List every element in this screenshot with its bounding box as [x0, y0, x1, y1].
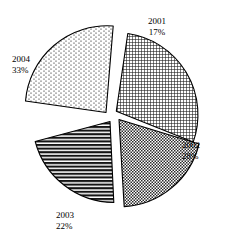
- slice-label-2001: 2001 17%: [148, 16, 166, 37]
- slice-label-2003-year: 2003: [56, 210, 74, 221]
- slice-label-2002-year: 2002: [182, 140, 200, 151]
- pie-chart-figure: 2001 17% 2002 28% 2003 22% 2004 33%: [0, 0, 226, 237]
- slice-label-2001-year: 2001: [148, 16, 166, 27]
- slice-label-2003: 2003 22%: [56, 210, 74, 231]
- slice-label-2004: 2004 33%: [12, 54, 30, 75]
- pie-slice-2003[interactable]: [35, 122, 114, 203]
- slice-label-2004-percent: 33%: [12, 65, 30, 76]
- slice-label-2002-percent: 28%: [182, 151, 200, 162]
- slice-label-2004-year: 2004: [12, 54, 30, 65]
- pie-slice-2004[interactable]: [26, 26, 114, 113]
- pie-plot-area: [0, 0, 226, 237]
- slice-label-2003-percent: 22%: [56, 221, 74, 232]
- slice-label-2001-percent: 17%: [148, 27, 166, 38]
- slice-label-2002: 2002 28%: [182, 140, 200, 161]
- pie-svg: [0, 0, 226, 237]
